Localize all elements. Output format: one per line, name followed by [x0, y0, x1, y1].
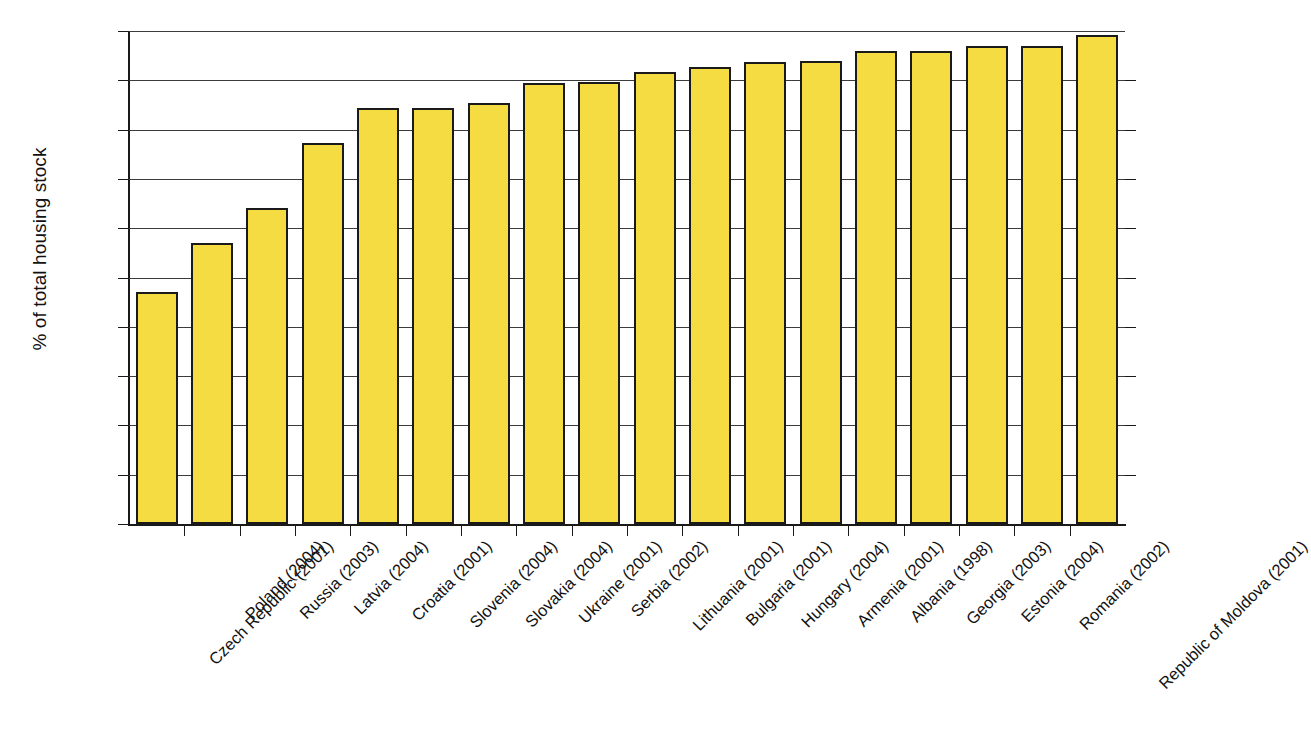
- y-tick-right-50: [1125, 278, 1136, 279]
- bar: [744, 62, 786, 524]
- y-tick-50: [118, 278, 129, 279]
- y-tick-30: [118, 376, 129, 377]
- y-tick-10: [118, 475, 129, 476]
- bar: [412, 108, 454, 524]
- y-tick-100: [118, 31, 129, 32]
- bar: [246, 208, 288, 524]
- bar: [855, 51, 897, 524]
- bar: [357, 108, 399, 524]
- y-tick-80: [118, 130, 129, 131]
- y-tick-right-70: [1125, 179, 1136, 180]
- plot-area: 0102030405060708090100: [129, 31, 1125, 524]
- y-tick-right-60: [1125, 228, 1136, 229]
- bar: [800, 61, 842, 524]
- y-tick-right-20: [1125, 425, 1136, 426]
- bar: [523, 83, 565, 524]
- bar: [191, 243, 233, 524]
- bar: [578, 82, 620, 524]
- y-tick-20: [118, 425, 129, 426]
- y-tick-70: [118, 179, 129, 180]
- bar: [689, 67, 731, 524]
- y-tick-0: [118, 524, 129, 525]
- bar: [1021, 46, 1063, 524]
- x-tick-label: Republic of Moldova (2001): [1155, 537, 1311, 693]
- y-tick-right-10: [1125, 475, 1136, 476]
- y-tick-90: [118, 80, 129, 81]
- bar: [1076, 35, 1118, 524]
- y-tick-right-90: [1125, 80, 1136, 81]
- y-tick-right-80: [1125, 130, 1136, 131]
- y-tick-40: [118, 327, 129, 328]
- bar: [966, 46, 1008, 524]
- bar: [136, 292, 178, 524]
- bar: [910, 51, 952, 524]
- bar: [468, 103, 510, 525]
- gridline-100: [129, 31, 1125, 32]
- y-axis-title: % of total housing stock: [29, 69, 51, 429]
- bar: [634, 72, 676, 524]
- y-tick-60: [118, 228, 129, 229]
- y-tick-right-30: [1125, 376, 1136, 377]
- y-tick-right-40: [1125, 327, 1136, 328]
- x-axis-tick-labels: Czech Republic (2001)Poland (2004)Russia…: [129, 524, 1144, 756]
- bar: [302, 143, 344, 524]
